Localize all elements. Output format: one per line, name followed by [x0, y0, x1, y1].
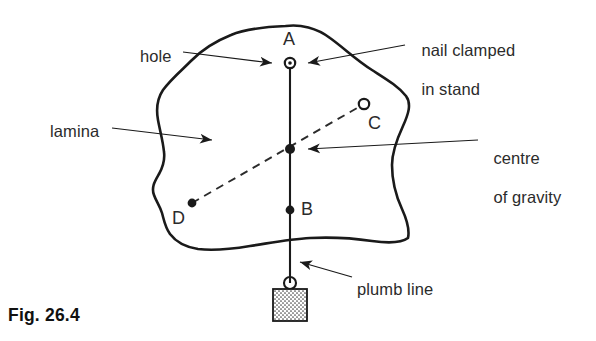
label-nail-line1: nail clamped	[421, 41, 515, 59]
plumb-bob-weight	[273, 289, 307, 321]
construction-line-dashed	[192, 104, 364, 203]
point-label-c: C	[368, 113, 381, 134]
figure-caption: Fig. 26.4	[8, 305, 80, 326]
nail-marker-a	[288, 61, 292, 65]
label-plumb-line: plumb line	[357, 280, 433, 299]
label-hole: hole	[140, 47, 172, 66]
point-label-b: B	[301, 199, 313, 220]
label-lamina: lamina	[50, 122, 99, 141]
point-marker-b	[286, 206, 295, 215]
label-cg-line2: of gravity	[493, 188, 561, 206]
centre-of-gravity-marker	[285, 144, 295, 154]
label-cg-line1: centre	[493, 149, 539, 167]
label-nail-line2: in stand	[421, 80, 480, 98]
point-label-a: A	[283, 29, 295, 50]
hole-marker-c	[359, 99, 369, 109]
cg-leader	[308, 140, 478, 149]
point-markers	[188, 58, 370, 215]
label-nail-clamped-in-stand: nail clamped in stand	[412, 22, 515, 100]
plumb-leader	[300, 262, 352, 277]
label-centre-of-gravity: centre of gravity	[484, 130, 561, 208]
point-label-d: D	[172, 208, 185, 229]
point-marker-d	[188, 199, 197, 208]
